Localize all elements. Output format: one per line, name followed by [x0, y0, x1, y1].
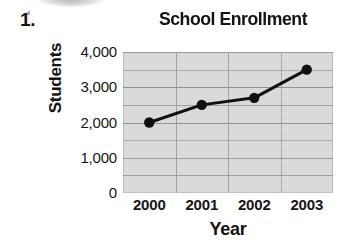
y-axis-tick-label: 1,000	[55, 149, 117, 166]
x-axis-tick-labels: 2000200120022003	[123, 196, 333, 218]
data-point-marker: 2003: 3500	[302, 64, 312, 74]
x-axis-label: Year	[123, 219, 333, 240]
scan-artifact-smudge	[36, 0, 106, 6]
question-number: 1.	[20, 9, 35, 31]
series-line-chart: 2000: 20002001: 25002002: 27002003: 3500	[123, 52, 333, 193]
plot-area: 2000: 20002001: 25002002: 27002003: 3500	[123, 52, 333, 193]
x-axis-tick-label: 2002	[226, 196, 282, 213]
chart-title: School Enrollment	[126, 8, 340, 30]
plot-wrap: 2000: 20002001: 25002002: 27002003: 3500	[123, 52, 333, 193]
series-line	[149, 70, 307, 123]
data-point-marker: 2000: 2000	[144, 117, 154, 127]
x-axis-tick-label: 2000	[121, 196, 177, 213]
data-point-marker: 2002: 2700	[249, 93, 259, 103]
data-point-marker: 2001: 2500	[197, 100, 207, 110]
worksheet-page: 1. School Enrollment 4,0003,0002,0001,00…	[0, 0, 353, 245]
x-axis-tick-label: 2001	[174, 196, 230, 213]
x-axis-tick-label: 2003	[279, 196, 335, 213]
y-axis-tick-label: 0	[55, 184, 117, 201]
y-axis-label: Students	[46, 18, 66, 138]
